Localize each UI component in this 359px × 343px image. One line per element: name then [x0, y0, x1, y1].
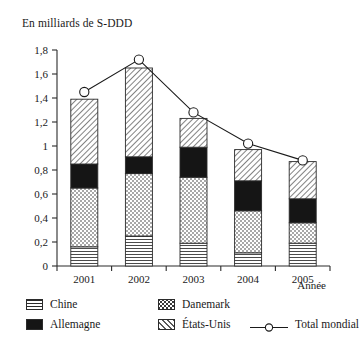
legend-item-etats-unis: États-Unis [158, 318, 231, 330]
y-axis-tick-label: 1,6 [34, 68, 48, 80]
x-axis-category-label: 2002 [128, 273, 150, 285]
legend-label-total-mondial: Total mondial [295, 318, 359, 330]
bar-segment [180, 243, 207, 266]
bar-segment [71, 164, 98, 188]
legend-label-danemark: Danemark [182, 298, 230, 310]
bar-segment [235, 150, 262, 181]
x-axis-category-label: 2004 [237, 273, 260, 285]
legend-label-allemagne: Allemagne [50, 318, 100, 330]
bar-segment [289, 199, 316, 223]
chart-plot-area: 1,81,61,41,210,80,60,40,20 2001200220032… [0, 0, 359, 300]
chart-legend: Chine Danemark Allemagne États-Unis Tota… [0, 296, 359, 336]
legend-item-danemark: Danemark [158, 298, 230, 310]
x-axis-name: Année [297, 279, 326, 291]
legend-swatch-horizontal-lines [26, 299, 43, 310]
legend-label-etats-unis: États-Unis [182, 318, 231, 330]
y-axis-tick-label: 0,2 [34, 236, 48, 248]
y-axis-tick-label: 1,2 [34, 116, 48, 128]
bar-segment [125, 236, 152, 266]
bar-segment [180, 147, 207, 177]
chart-figure: En milliards de S-DDD [0, 0, 359, 343]
bar-segment [235, 211, 262, 253]
legend-swatch-dots [158, 299, 175, 310]
bar-segment [180, 118, 207, 147]
y-axis-tick-label: 1,4 [34, 92, 48, 104]
legend-item-total-mondial: Total mondial [250, 318, 359, 330]
x-axis-category-labels: 20012002200320042005 [73, 273, 314, 285]
y-axis-tick-label: 0,6 [34, 188, 48, 200]
total-mondial-marker [189, 108, 198, 117]
bar-segment [71, 188, 98, 247]
bar-segment [235, 253, 262, 266]
y-axis-tick-labels: 1,81,61,41,210,80,60,40,20 [34, 44, 48, 272]
total-mondial-marker [244, 139, 253, 148]
y-axis-tick-marks [52, 50, 57, 266]
total-mondial-marker [80, 87, 89, 96]
legend-swatch-solid-black [26, 319, 43, 330]
bar-segment [289, 223, 316, 243]
y-axis-tick-label: 0 [43, 260, 49, 272]
bar-segment [125, 68, 152, 157]
total-mondial-marker [298, 156, 307, 165]
stacked-bars-group [71, 68, 316, 266]
bar-segment [125, 157, 152, 174]
bar-segment [289, 162, 316, 199]
legend-item-allemagne: Allemagne [26, 318, 100, 330]
bar-segment [180, 177, 207, 243]
total-mondial-marker [134, 55, 143, 64]
bar-segment [125, 174, 152, 236]
x-axis-category-label: 2001 [73, 273, 95, 285]
y-axis-tick-label: 1 [43, 140, 49, 152]
bar-segment [235, 181, 262, 211]
y-axis-tick-label: 1,8 [34, 44, 48, 56]
bar-segment [289, 243, 316, 266]
bar-segment [71, 99, 98, 164]
legend-swatch-diagonal-hatch [158, 319, 175, 330]
y-axis-tick-label: 0,4 [34, 212, 48, 224]
legend-swatch-line-open-circle [250, 319, 288, 330]
x-axis-tick-marks [57, 266, 330, 271]
y-axis-tick-label: 0,8 [34, 164, 48, 176]
legend-label-chine: Chine [50, 298, 77, 310]
x-axis-category-label: 2003 [183, 273, 206, 285]
bar-segment [71, 247, 98, 266]
legend-item-chine: Chine [26, 298, 77, 310]
